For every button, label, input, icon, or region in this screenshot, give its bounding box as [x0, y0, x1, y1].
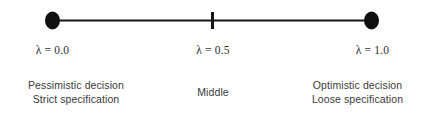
- description-right-line1: Optimistic decision: [290, 78, 425, 92]
- description-left-line1: Pessimistic decision: [0, 78, 152, 92]
- description-right-line2: Loose specification: [290, 92, 425, 106]
- endpoint-dot-left: [45, 12, 60, 30]
- lambda-value-middle: λ = 0.5: [163, 44, 263, 56]
- axis-graphic: [0, 0, 425, 45]
- lambda-value-right: λ = 1.0: [320, 44, 425, 56]
- endpoint-dot-right: [364, 12, 379, 30]
- description-middle-line1: Middle: [163, 85, 263, 99]
- lambda-value-left: λ = 0.0: [0, 44, 105, 56]
- description-middle: Middle: [163, 85, 263, 99]
- description-right: Optimistic decision Loose specification: [290, 78, 425, 106]
- lambda-scale-diagram: λ = 0.0 λ = 0.5 λ = 1.0 Pessimistic deci…: [0, 0, 425, 121]
- description-left-line2: Strict specification: [0, 92, 152, 106]
- description-left: Pessimistic decision Strict specificatio…: [0, 78, 152, 106]
